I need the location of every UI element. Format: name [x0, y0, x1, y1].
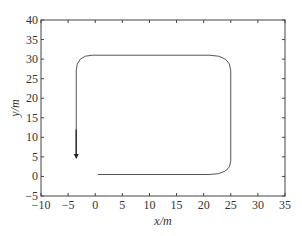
x-axis-label: x/m — [153, 214, 172, 228]
x-tick-label: 25 — [225, 198, 237, 212]
trajectory-series — [74, 55, 231, 174]
y-tick-label: 25 — [26, 72, 38, 86]
y-tick-label: 5 — [32, 150, 38, 164]
y-tick-label: 10 — [26, 130, 38, 144]
y-tick-labels: −50510152025303540 — [25, 13, 38, 203]
y-tick-label: 20 — [26, 91, 38, 105]
trajectory-chart: −10−505101520253035 −50510152025303540 x… — [0, 0, 302, 236]
x-tick-label: 5 — [119, 198, 125, 212]
y-tick-label: 0 — [32, 169, 38, 183]
y-tick-label: 35 — [26, 33, 38, 47]
x-tick-labels: −10−505101520253035 — [32, 198, 291, 212]
x-tick-label: 35 — [279, 198, 291, 212]
y-axis-label: y/m — [8, 99, 22, 118]
x-tick-label: 0 — [92, 198, 98, 212]
y-tick-label: 30 — [26, 52, 38, 66]
plot-border — [41, 20, 285, 196]
trajectory-line — [76, 55, 231, 174]
axis-ticks — [41, 20, 285, 196]
x-tick-label: 10 — [143, 198, 155, 212]
y-tick-label: 40 — [26, 13, 38, 27]
x-tick-label: −5 — [62, 198, 75, 212]
arrow-head-icon — [74, 154, 79, 159]
x-tick-label: 15 — [171, 198, 183, 212]
y-tick-label: 15 — [26, 111, 38, 125]
x-tick-label: 30 — [252, 198, 264, 212]
plot-frame — [41, 20, 285, 196]
x-tick-label: 20 — [198, 198, 210, 212]
y-tick-label: −5 — [25, 189, 38, 203]
